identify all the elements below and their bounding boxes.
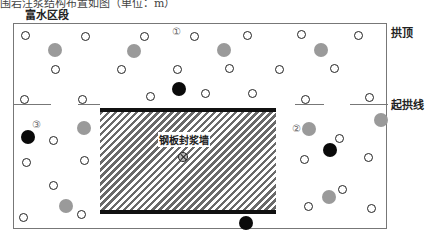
open-hole <box>81 32 90 41</box>
open-hole <box>365 93 374 102</box>
open-hole <box>49 136 58 145</box>
grey-hole <box>374 113 388 127</box>
springline-label: 起拱线 <box>391 96 424 112</box>
black-hole <box>239 216 253 230</box>
springline-segment <box>78 104 100 105</box>
steel-plate-grout-wall <box>100 108 276 214</box>
marker-2: ② <box>292 123 301 134</box>
grey-hole <box>127 44 141 58</box>
open-hole <box>243 31 252 40</box>
open-hole <box>77 210 86 219</box>
open-hole <box>78 95 87 104</box>
grey-hole <box>48 43 62 57</box>
open-hole <box>335 134 344 143</box>
open-hole <box>301 95 310 104</box>
springline-segment <box>350 104 388 105</box>
open-hole <box>117 65 126 74</box>
grey-hole <box>217 43 231 57</box>
open-hole <box>51 65 60 74</box>
open-hole <box>80 156 89 165</box>
open-hole <box>297 30 306 39</box>
open-hole <box>300 155 309 164</box>
open-hole <box>20 95 29 104</box>
open-hole <box>21 31 30 40</box>
open-hole <box>367 204 376 213</box>
open-hole <box>330 64 339 73</box>
open-hole <box>304 202 313 211</box>
grey-hole <box>314 43 328 57</box>
open-hole <box>201 89 210 98</box>
grey-hole <box>77 121 91 135</box>
marker-3: ③ <box>32 119 41 130</box>
marker-1: ① <box>172 26 181 37</box>
crown-label: 拱顶 <box>391 24 413 40</box>
black-hole <box>323 143 337 157</box>
springline-segment <box>295 104 324 105</box>
open-hole <box>49 181 58 190</box>
center-cross-icon <box>178 152 188 162</box>
black-hole <box>21 130 35 144</box>
open-hole <box>248 89 257 98</box>
open-hole <box>190 32 199 41</box>
open-hole <box>140 32 149 41</box>
grey-hole <box>322 190 336 204</box>
open-hole <box>275 65 284 74</box>
grey-hole <box>59 199 73 213</box>
springline-segment <box>13 104 51 105</box>
open-hole <box>364 153 373 162</box>
open-hole <box>338 185 347 194</box>
open-hole <box>22 158 31 167</box>
section-title: 富水区段 <box>25 6 69 22</box>
open-hole <box>354 31 363 40</box>
black-hole <box>172 82 186 96</box>
open-hole <box>19 213 28 222</box>
open-hole <box>173 65 182 74</box>
grey-hole <box>302 122 316 136</box>
open-hole <box>146 92 155 101</box>
open-hole <box>225 64 234 73</box>
wall-label: 钢板封浆墙 <box>158 132 210 147</box>
